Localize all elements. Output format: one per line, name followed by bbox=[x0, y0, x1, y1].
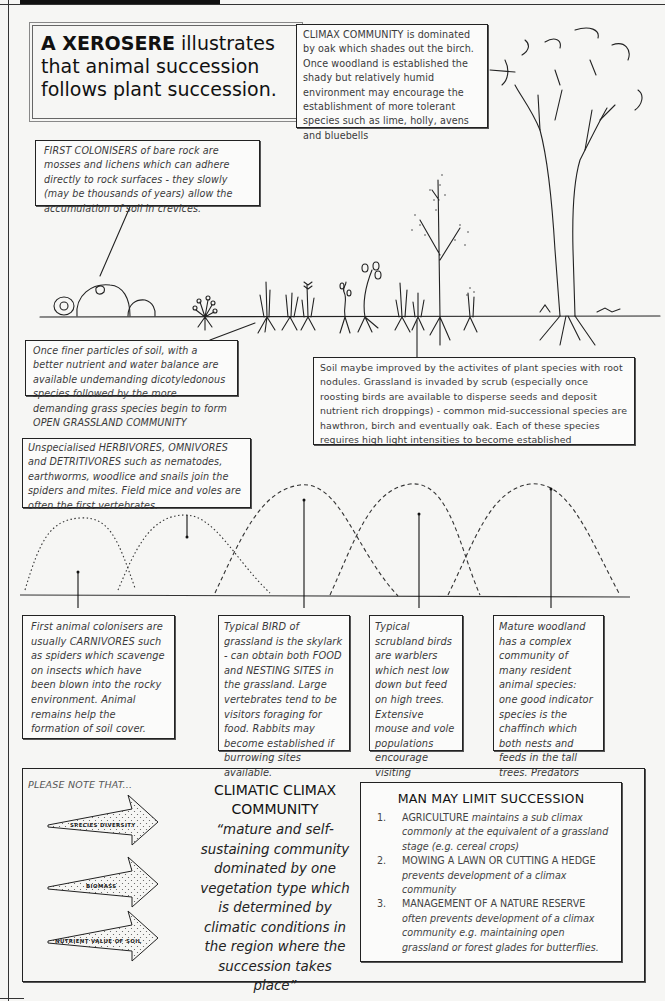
climatic-climax-definition: “mature and self-sustaining community do… bbox=[200, 820, 350, 996]
man-limits-title: MAN MAY LIMIT SUCCESSION bbox=[371, 791, 611, 806]
scrubland-birds-note: Typical scrubland birds are warblers whi… bbox=[369, 615, 463, 751]
rock-icon bbox=[54, 285, 155, 316]
arrow-up-right-icon bbox=[48, 911, 158, 961]
climax-community-note: CLIMAX COMMUNITY is dominated by oak whi… bbox=[296, 24, 488, 128]
please-note-label: PLEASE NOTE THAT... bbox=[28, 779, 132, 790]
birch-sapling-icon bbox=[420, 180, 460, 345]
arrow-up-right-icon bbox=[48, 795, 158, 845]
grass-icon bbox=[258, 282, 315, 333]
animal-succession-curves bbox=[0, 480, 665, 620]
carnivores-note: First animal colonisers are usually CARN… bbox=[22, 615, 175, 739]
scrub-invasion-note: Soil maybe improved by the activites of … bbox=[313, 357, 635, 445]
climatic-climax-title: CLIMATIC CLIMAX COMMUNITY bbox=[205, 781, 345, 819]
foliage-dots bbox=[411, 174, 475, 296]
man-limits-succession-box: MAN MAY LIMIT SUCCESSION 1. AGRICULTURE … bbox=[360, 782, 622, 962]
arrow-label-biomass: BIOMASS bbox=[86, 883, 117, 889]
woodland-note: Mature woodland has a complex community … bbox=[493, 615, 604, 751]
grassland-bird-note: Typical BIRD of grassland is the skylark… bbox=[218, 615, 350, 751]
open-grassland-note: Once finer particles of soil, with a bet… bbox=[25, 340, 238, 396]
list-item: 3. MANAGEMENT OF A NATURE RESERVE often … bbox=[371, 897, 611, 955]
arrow-up-right-icon bbox=[48, 857, 158, 907]
first-colonisers-note: FIRST COLONISERS of bare rock are mosses… bbox=[35, 140, 260, 206]
grassland-callout-line bbox=[210, 323, 255, 340]
arrow-label-nutrient-value: NUTRIENT VALUE OF SOIL bbox=[55, 938, 141, 944]
herb-icon bbox=[193, 296, 217, 330]
man-limits-list: 1. AGRICULTURE maintains a sub climax co… bbox=[371, 811, 611, 955]
arrow-label-species-diversity: SPECIES DIVERSITY bbox=[70, 822, 136, 828]
seedling-icon bbox=[340, 262, 381, 333]
climax-callout-line bbox=[490, 70, 515, 72]
baseline bbox=[20, 595, 630, 597]
list-item: 2. MOWING A LAWN OR CUTTING A HEDGE prev… bbox=[371, 854, 611, 897]
ground-line bbox=[40, 316, 660, 317]
list-item: 1. AGRICULTURE maintains a sub climax co… bbox=[371, 811, 611, 854]
oak-tree-icon bbox=[502, 28, 642, 345]
bottom-tick bbox=[0, 998, 24, 999]
